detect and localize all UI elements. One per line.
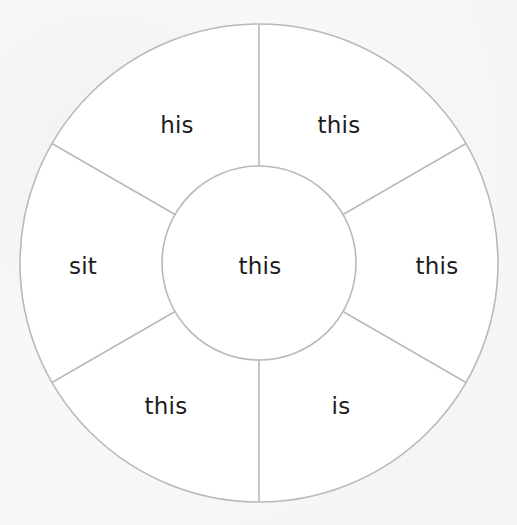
center-word[interactable]: this [239,255,282,278]
segment-word-left[interactable]: sit [69,255,97,278]
segment-word-top-left[interactable]: his [160,114,194,137]
segment-word-top-right[interactable]: this [318,114,361,137]
word-wheel-worksheet: this his this this is this sit [0,0,517,525]
segment-word-bottom-right[interactable]: is [332,395,351,418]
segment-word-right[interactable]: this [416,255,459,278]
segment-word-bottom-left[interactable]: this [145,395,188,418]
